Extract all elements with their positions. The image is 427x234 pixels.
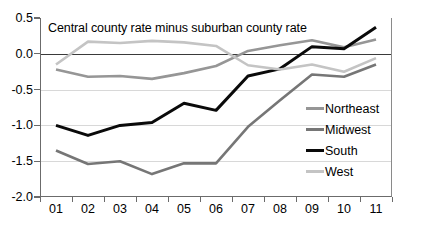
legend-label-south: South <box>324 144 358 158</box>
line-chart-figure: 0.50.0-0.5-1.0-1.5-2.0 01020304050607080… <box>0 0 427 234</box>
y-tick-text: -0.5 <box>11 84 33 97</box>
x-tick-mark <box>392 197 393 202</box>
x-tick-label: 03 <box>107 203 133 217</box>
x-tick-mark <box>200 197 201 202</box>
x-tick-mark <box>104 197 105 202</box>
legend-label-west: West <box>324 165 353 179</box>
x-tick-mark <box>328 197 329 202</box>
x-tick-mark <box>264 197 265 202</box>
legend-item-northeast[interactable]: Northeast <box>306 98 379 119</box>
x-tick-label: 06 <box>203 203 229 217</box>
legend-swatch-midwest <box>306 128 324 130</box>
x-tick-label: 09 <box>299 203 325 217</box>
y-tick-text: -2.0 <box>11 191 33 204</box>
x-tick-mark <box>360 197 361 202</box>
x-tick-label: 02 <box>75 203 101 217</box>
x-tick-label: 10 <box>331 203 357 217</box>
x-tick-mark <box>40 197 41 202</box>
y-tick-text: 0.0 <box>16 48 33 61</box>
x-tick-label: 08 <box>267 203 293 217</box>
x-tick-mark <box>72 197 73 202</box>
legend-swatch-west <box>306 170 324 172</box>
legend-item-south[interactable]: South <box>306 140 379 161</box>
y-tick-text: -1.0 <box>11 119 33 132</box>
x-tick-label: 07 <box>235 203 261 217</box>
chart-title: Central county rate minus suburban count… <box>48 21 307 35</box>
legend-swatch-northeast <box>306 107 324 109</box>
chart-legend: Northeast Midwest South West <box>306 98 379 182</box>
x-tick-mark <box>168 197 169 202</box>
legend-swatch-south <box>306 149 324 152</box>
legend-item-west[interactable]: West <box>306 161 379 182</box>
legend-label-northeast: Northeast <box>324 102 379 116</box>
x-tick-mark <box>296 197 297 202</box>
y-tick-text: 0.5 <box>16 12 33 25</box>
legend-label-midwest: Midwest <box>324 123 371 137</box>
legend-item-midwest[interactable]: Midwest <box>306 119 379 140</box>
y-tick-text: -1.5 <box>11 155 33 168</box>
x-tick-label: 04 <box>139 203 165 217</box>
x-tick-mark <box>136 197 137 202</box>
x-tick-label: 01 <box>43 203 69 217</box>
x-tick-mark <box>232 197 233 202</box>
x-tick-label: 05 <box>171 203 197 217</box>
x-tick-label: 11 <box>363 203 389 217</box>
